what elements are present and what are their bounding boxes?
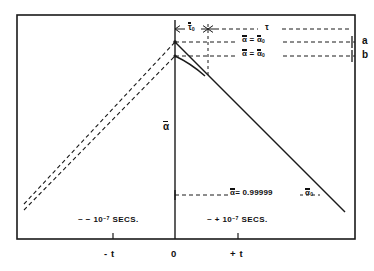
series-b-rise <box>24 56 175 210</box>
series-a-decay <box>175 42 345 212</box>
figure-canvas <box>0 0 374 271</box>
series-a-rise <box>24 42 175 204</box>
series-b-decay-curve <box>175 56 205 76</box>
plot-frame <box>17 15 355 239</box>
